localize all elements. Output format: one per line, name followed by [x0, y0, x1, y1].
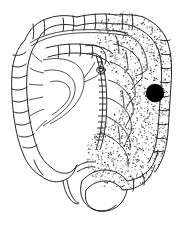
colon-diagram [0, 0, 182, 227]
cecum [34, 160, 77, 182]
sigmoid-colon [81, 170, 127, 211]
caption-band [0, 211, 182, 227]
lesion-marker[interactable] [146, 84, 164, 102]
splenic-flexure [113, 14, 143, 30]
terminal-ileum [76, 162, 95, 172]
appendix [63, 180, 79, 204]
ascending-colon [12, 40, 52, 176]
rectum [99, 190, 127, 211]
figure-root [0, 0, 182, 227]
mesentery-arcades [29, 52, 98, 131]
hepatic-flexure [25, 16, 77, 42]
